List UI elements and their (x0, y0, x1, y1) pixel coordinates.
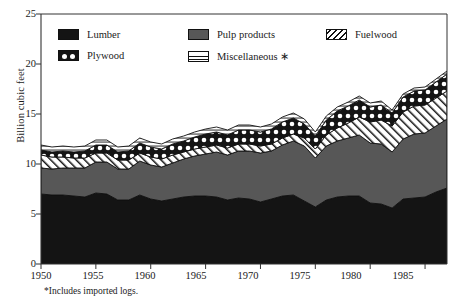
chart-figure: Billion cubic feet 25 20 15 10 5 0 1950 … (0, 0, 455, 302)
chart-footnote: *Includes imported logs. (44, 286, 138, 296)
stacked-area-plot (0, 0, 455, 302)
area-series-group (41, 71, 447, 264)
